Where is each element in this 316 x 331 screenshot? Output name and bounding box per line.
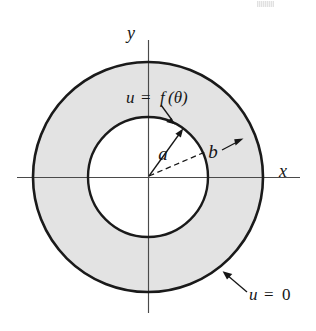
- outer-bc-leader-line: [227, 275, 247, 292]
- outer-boundary-condition-label: u = 0: [249, 285, 291, 304]
- x-axis-label: x: [278, 161, 287, 181]
- outer-bc-u: u: [249, 285, 258, 304]
- annulus-diagram-svg: y x a b u = f (θ) u = 0: [0, 0, 316, 331]
- outer-bc-leader: [223, 271, 247, 292]
- y-axis-label: y: [125, 23, 135, 43]
- inner-bc-equals: =: [141, 88, 151, 107]
- radius-a-label: a: [158, 143, 168, 164]
- outer-bc-equals: =: [264, 285, 274, 304]
- figure-root: y x a b u = f (θ) u = 0: [0, 0, 316, 331]
- radius-a-arrowhead: [175, 129, 183, 138]
- radius-b-label: b: [208, 141, 218, 162]
- inner-bc-u: u: [126, 88, 135, 107]
- outer-bc-zero: 0: [282, 285, 291, 304]
- inner-bc-theta-arg: (θ): [168, 88, 188, 107]
